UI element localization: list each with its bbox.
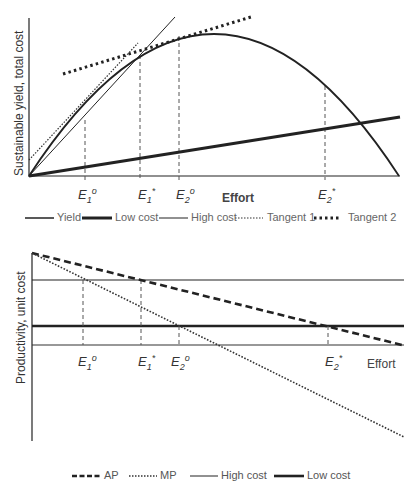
marker-sup: * [339,353,343,363]
bottom-marker-e1star: E1* [138,353,155,372]
marker-base: E [138,354,147,369]
tangent-2-line [63,17,251,74]
marker-sup: * [152,186,156,196]
tangent-1-line [29,43,138,160]
top-chart [29,17,400,180]
bottom-marker-e1o: E1o [78,353,97,372]
legend-label-tangent-1: Tangent 1 [267,211,315,223]
marker-sup: o [185,353,190,363]
marker-sup: o [190,186,195,196]
marker-sub: 1 [147,362,152,372]
bottom-y-axis-label: Productivity, unit cost [14,272,28,385]
legend-label-high-cost: High cost [191,211,237,223]
bottom-marker-e2o: E2o [171,353,190,372]
marker-sub: 1 [87,362,92,372]
bottom-marker-e2star: E2* [325,353,342,372]
legend-label-yield: Yield [57,211,81,223]
marker-base: E [176,187,185,202]
marker-base: E [138,187,147,202]
top-marker-e2o: E2o [176,186,195,205]
marker-sub: 2 [334,362,339,372]
top-x-axis-label: Effort [222,191,254,205]
ap-line [32,253,402,345]
legend-label-bottom-high-cost: High cost [221,469,267,481]
legend-label-tangent-2: Tangent 2 [348,211,396,223]
marker-base: E [171,354,180,369]
marker-sub: 1 [147,195,152,205]
diagram-canvas [0,0,412,495]
marker-base: E [78,354,87,369]
marker-sup: o [92,353,97,363]
marker-sup: * [152,353,156,363]
marker-sub: 2 [180,362,185,372]
legend-label-mp: MP [160,469,177,481]
high-cost-line [29,17,175,176]
marker-sub: 2 [185,195,190,205]
marker-sup: o [92,186,97,196]
top-marker-e1star: E1* [138,186,155,205]
top-y-axis-label: Sustainable yield, total cost [12,31,26,176]
legend-label-bottom-low-cost: Low cost [307,469,350,481]
marker-sub: 1 [87,195,92,205]
marker-base: E [318,187,327,202]
marker-base: E [325,354,334,369]
marker-base: E [78,187,87,202]
bottom-x-axis-label: Effort [367,357,395,371]
bottom-chart [32,253,404,441]
marker-sub: 2 [327,195,332,205]
low-cost-line [29,117,400,176]
legend-label-low-cost: Low cost [115,211,158,223]
marker-sup: * [332,186,336,196]
yield-curve [29,34,399,176]
top-marker-e2star: E2* [318,186,335,205]
top-marker-e1o: E1o [78,186,97,205]
legend-label-ap: AP [104,469,119,481]
